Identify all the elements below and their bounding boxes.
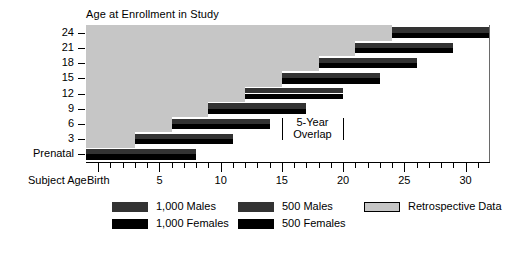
overlap-marker-left [282,118,283,140]
x-axis-tick-label: 30 [459,174,471,186]
chart-figure: Age at Enrollment in Study 2421181512963… [0,0,530,255]
cohort-bar [172,119,270,130]
cohort-bar-females [355,48,453,53]
x-axis-tick-label: 20 [337,174,349,186]
cohort-bar [135,134,233,145]
retrospective-segment [86,71,282,87]
cohort-bar [86,149,196,160]
x-axis-tick-label: Birth [87,174,110,186]
y-axis-title: Age at Enrollment in Study [86,8,219,20]
y-axis-tick-label: 9 [68,103,74,114]
x-axis-tick-label: 10 [215,174,227,186]
x-axis-minor-tick [257,163,258,168]
cohort-bar [392,27,490,38]
x-axis-major-tick [466,163,467,172]
cohort-bar [282,73,380,84]
cohort-bar-females [245,94,343,99]
x-axis-minor-tick [233,163,234,168]
y-axis-tick-label: 12 [62,88,74,99]
x-axis-minor-tick [135,163,136,168]
x-axis-minor-tick [245,163,246,168]
legend-swatch-gray [112,202,148,212]
x-axis-major-tick [343,163,344,172]
x-axis-major-tick [159,163,160,172]
retrospective-segment [86,132,135,148]
retrospective-segment [86,25,392,41]
x-axis-major-tick [404,163,405,172]
x-axis-minor-tick [441,163,442,168]
y-axis-tick-label: 15 [62,72,74,83]
legend-label: 500 Females [282,217,346,230]
x-axis-minor-tick [270,163,271,168]
overlap-annotation-line2: Overlap [293,129,332,141]
legend-label: 1,000 Males [156,200,216,213]
x-axis-minor-tick [110,163,111,168]
legend-label: Retrospective Data [408,200,502,213]
x-axis-minor-tick [429,163,430,168]
y-axis-tick-label: 6 [68,118,74,129]
x-axis-major-tick [282,163,283,172]
x-axis-minor-tick [478,163,479,168]
x-axis-minor-tick [184,163,185,168]
x-axis-major-tick [98,163,99,172]
x-axis-minor-tick [355,163,356,168]
x-axis-minor-tick [331,163,332,168]
y-axis-tick-label: Prenatal [33,148,74,159]
retrospective-segment [86,86,245,102]
y-axis-tick-label: 3 [68,133,74,144]
overlap-marker-right [343,118,344,140]
y-axis-tick-label: 24 [62,27,74,38]
overlap-annotation: 5-Year Overlap [293,117,332,140]
y-axis-tick [78,109,85,110]
x-axis-minor-tick [123,163,124,168]
plot-area [86,25,490,162]
cohort-bar-females [86,154,196,159]
x-axis-minor-tick [196,163,197,168]
cohort-bar-females [392,33,490,38]
x-axis-tick-label: 25 [398,174,410,186]
cohort-bar-females [135,139,233,144]
cohort-bar [319,58,417,69]
cohort-bar-females [172,124,270,129]
retrospective-segment [86,55,319,71]
legend-swatch-black [112,219,148,229]
x-axis-minor-tick [380,163,381,168]
y-axis-tick-label: 21 [62,42,74,53]
x-axis-title: Subject Age [28,174,87,186]
x-axis-minor-tick [172,163,173,168]
legend-swatch-gray [238,202,274,212]
legend-label: 1,000 Females [156,217,229,230]
y-axis-tick [78,124,85,125]
x-axis-minor-tick [417,163,418,168]
x-axis-minor-tick [306,163,307,168]
x-axis-tick-label: 15 [276,174,288,186]
y-axis-tick [78,94,85,95]
x-axis-minor-tick [319,163,320,168]
cohort-bar [355,43,453,54]
cohort-bar-females [319,63,417,68]
x-axis-minor-tick [368,163,369,168]
cohort-bar [208,103,306,114]
cohort-bar-females [208,109,306,114]
legend-swatch-retro [364,202,400,212]
legend-swatch-black [238,219,274,229]
x-axis-minor-tick [147,163,148,168]
retrospective-segment [86,116,172,132]
y-axis-tick [78,48,85,49]
y-axis-tick-label: 18 [62,57,74,68]
y-axis-tick [78,63,85,64]
cohort-bar [245,88,343,99]
x-axis-major-tick [221,163,222,172]
y-axis-tick [78,33,85,34]
retrospective-segment [86,101,208,117]
retrospective-segment [86,40,355,56]
x-axis-tick-label: 5 [156,174,162,186]
y-axis-tick [78,139,85,140]
y-axis-tick [78,78,85,79]
legend-label: 500 Males [282,200,333,213]
overlap-annotation-line1: 5-Year [293,117,332,129]
x-axis-minor-tick [208,163,209,168]
y-axis-tick [78,154,85,155]
x-axis-minor-tick [392,163,393,168]
x-axis-minor-tick [453,163,454,168]
